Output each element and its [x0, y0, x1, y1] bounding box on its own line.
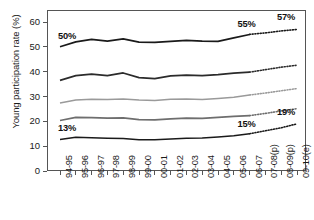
data-label: 19%: [277, 107, 295, 117]
y-tick-label: 60: [14, 16, 40, 27]
x-tick-label: 00-01: [159, 155, 169, 178]
x-tick-mark: [154, 171, 155, 175]
data-label: 15%: [238, 119, 256, 129]
y-tick-label: 0: [14, 165, 40, 176]
x-tick-mark: [297, 171, 298, 175]
data-label: 55%: [238, 19, 256, 29]
x-tick-mark: [139, 171, 140, 175]
plot-area: [47, 10, 306, 171]
x-tick-label: 08-09(p): [285, 144, 295, 178]
x-tick-label: 99-00: [143, 155, 153, 178]
x-tick-mark: [202, 171, 203, 175]
y-tick-label: 50: [14, 41, 40, 52]
x-tick-label: 03-04: [206, 155, 216, 178]
x-tick-label: 96-97: [96, 155, 106, 178]
x-tick-label: 01-02: [175, 155, 185, 178]
x-tick-label: 02-03: [190, 155, 200, 178]
x-tick-mark: [218, 171, 219, 175]
x-tick-mark: [107, 171, 108, 175]
x-tick-label: 07-08(p): [269, 144, 279, 178]
x-tick-mark: [60, 171, 61, 175]
x-tick-mark: [186, 171, 187, 175]
x-tick-label: 95-96: [80, 155, 90, 178]
y-tick-label: 10: [14, 140, 40, 151]
x-tick-label: 98-99: [127, 155, 137, 178]
x-tick-label: 09-10(e): [301, 144, 311, 178]
x-tick-label: 97-98: [111, 155, 121, 178]
x-tick-mark: [91, 171, 92, 175]
x-tick-mark: [170, 171, 171, 175]
chart-container: Young participation rate (%) 01020304050…: [0, 0, 314, 220]
x-tick-label: 06-07: [254, 155, 264, 178]
x-tick-mark: [281, 171, 282, 175]
x-tick-mark: [75, 171, 76, 175]
x-tick-label: 94-95: [64, 155, 74, 178]
data-label: 13%: [58, 123, 76, 133]
x-tick-label: 04-05: [222, 155, 232, 178]
y-tick-label: 40: [14, 66, 40, 77]
x-tick-mark: [265, 171, 266, 175]
x-tick-mark: [123, 171, 124, 175]
data-label: 50%: [58, 31, 76, 41]
y-tick-label: 30: [14, 91, 40, 102]
x-tick-mark: [233, 171, 234, 175]
x-tick-label: 05-06: [238, 155, 248, 178]
x-tick-mark: [249, 171, 250, 175]
data-label: 57%: [277, 12, 295, 22]
y-tick-label: 20: [14, 115, 40, 126]
